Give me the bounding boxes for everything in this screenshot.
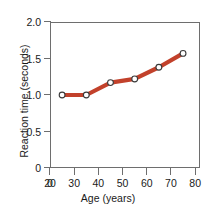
data-point-marker xyxy=(59,92,65,98)
x-tick-label: 30 xyxy=(68,178,80,188)
x-tick-label: 80 xyxy=(189,178,201,188)
x-tick-label: 70 xyxy=(165,178,177,188)
x-tick-mark xyxy=(74,168,75,175)
data-point-markers xyxy=(59,50,186,97)
x-tick-mark xyxy=(98,168,99,175)
data-point-marker xyxy=(83,92,89,98)
y-tick-mark xyxy=(44,21,51,22)
reaction-time-line-chart: 2.01.51.00.50 Reaction time (seconds) 02… xyxy=(0,0,216,215)
y-tick-label: 0 xyxy=(35,163,41,173)
data-point-marker xyxy=(132,76,138,82)
data-point-marker xyxy=(108,80,114,86)
x-tick-label: 60 xyxy=(141,178,153,188)
data-series-line xyxy=(62,53,183,95)
plot-canvas xyxy=(50,22,200,168)
x-tick-mark xyxy=(49,168,50,175)
data-point-marker xyxy=(156,64,162,70)
x-tick-label: 50 xyxy=(117,178,129,188)
x-axis-label: Age (years) xyxy=(0,192,216,204)
y-axis-label: Reaction time (seconds) xyxy=(18,21,30,181)
y-tick-mark xyxy=(44,94,51,95)
x-tick-mark xyxy=(122,168,123,175)
x-tick-mark xyxy=(195,168,196,175)
x-tick-mark xyxy=(146,168,147,175)
y-tick-mark xyxy=(44,58,51,59)
y-tick-mark xyxy=(44,131,51,132)
x-tick-label: 20 xyxy=(44,178,56,188)
x-tick-mark xyxy=(170,168,171,175)
x-tick-label: 40 xyxy=(93,178,105,188)
data-point-marker xyxy=(180,50,186,56)
